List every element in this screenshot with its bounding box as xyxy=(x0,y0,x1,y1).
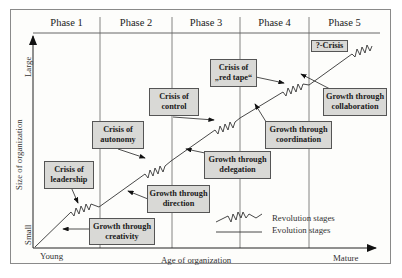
crisis-control-line2: control xyxy=(161,102,186,112)
crisis-autonomy-line2: autonomy xyxy=(100,135,136,145)
legend-symbols xyxy=(216,212,262,232)
crisis-leadership-line2: leadership xyxy=(51,175,88,185)
crisis-unknown-box: ?-Crisis xyxy=(311,40,348,52)
arrow-growth-collaboration xyxy=(301,74,330,89)
growth-creativity-line1: Growth through xyxy=(93,222,151,232)
growth-direction-line1: Growth through xyxy=(149,189,207,199)
crisis-red-tape-line2: „red tape“ xyxy=(215,73,252,83)
arrow-growth-delegation xyxy=(186,149,205,153)
crisis-leadership-box: Crisis of leadership xyxy=(44,161,94,189)
legend-revolution-symbol xyxy=(216,212,262,222)
growth-delegation-line1: Growth through xyxy=(208,155,266,165)
growth-delegation-line2: delegation xyxy=(219,165,255,175)
x-axis-start-label: Young xyxy=(40,251,63,261)
legend-evolution-label: Evolution stages xyxy=(272,225,330,235)
phase-4-label: Phase 4 xyxy=(240,15,309,31)
arrow-growth-direction xyxy=(128,191,148,199)
phase-3-label: Phase 3 xyxy=(172,15,240,31)
growth-collaboration-box: Growth through collaboration xyxy=(323,88,387,116)
growth-coordination-line1: Growth through xyxy=(269,125,327,135)
crisis-autonomy-line1: Crisis of xyxy=(103,125,133,135)
growth-creativity-line2: creativity xyxy=(105,232,138,242)
phase-2-label: Phase 2 xyxy=(100,15,172,31)
y-axis-start-label: Small xyxy=(23,224,33,245)
x-axis-end-label: Mature xyxy=(333,253,358,263)
crisis-control-box: Crisis of control xyxy=(149,88,199,116)
y-axis-end-label: Large xyxy=(23,57,33,77)
growth-coordination-line2: coordination xyxy=(276,135,321,145)
phase-1-label: Phase 1 xyxy=(33,15,100,31)
arrow-crisis-control xyxy=(173,117,214,120)
crisis-unknown-line1: ?-Crisis xyxy=(316,41,344,51)
arrow-crisis-autonomy xyxy=(118,149,145,158)
crisis-leadership-line1: Crisis of xyxy=(54,165,84,175)
growth-collaboration-line1: Growth through xyxy=(326,92,384,102)
growth-creativity-box: Growth through creativity xyxy=(89,218,155,245)
crisis-red-tape-box: Crisis of „red tape“ xyxy=(210,59,257,87)
crisis-red-tape-line1: Crisis of xyxy=(219,63,249,73)
crisis-autonomy-box: Crisis of autonomy xyxy=(92,121,144,149)
y-axis-title: Size of organization xyxy=(14,119,24,190)
growth-collaboration-line2: collaboration xyxy=(331,102,378,112)
phase-5-label: Phase 5 xyxy=(309,15,380,31)
crisis-control-line1: Crisis of xyxy=(159,92,189,102)
growth-delegation-box: Growth through delegation xyxy=(204,151,271,179)
growth-coordination-box: Growth through coordination xyxy=(265,121,332,149)
legend-revolution-label: Revolution stages xyxy=(272,213,335,223)
x-axis-title: Age of organization xyxy=(161,255,231,265)
growth-direction-line2: direction xyxy=(163,199,195,209)
growth-direction-box: Growth through direction xyxy=(147,185,210,213)
greiner-growth-diagram: Phase 1 Phase 2 Phase 3 Phase 4 Phase 5 … xyxy=(0,0,402,278)
